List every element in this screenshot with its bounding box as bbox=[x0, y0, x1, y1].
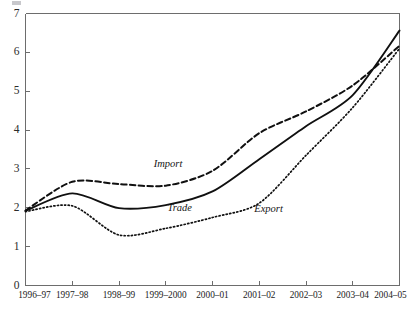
axis-frame bbox=[26, 14, 400, 286]
series-import bbox=[26, 46, 400, 211]
x-tick-label: 2004–05 bbox=[374, 290, 407, 300]
x-tick-label: 2001–02 bbox=[243, 290, 276, 300]
y-tick-label: 4 bbox=[14, 123, 20, 135]
y-axis-labels: 01234567 bbox=[14, 7, 20, 291]
y-tick-label: 7 bbox=[14, 7, 20, 19]
x-axis-labels: 1996–971997–981998–991999–20002000–01200… bbox=[18, 290, 407, 300]
y-tick-label: 5 bbox=[14, 84, 20, 96]
series-label-import: Import bbox=[153, 158, 184, 169]
x-tick-label: 1996–97 bbox=[18, 290, 51, 300]
y-tick-label: 2 bbox=[14, 201, 20, 213]
x-tick-label: 2002–03 bbox=[290, 290, 323, 300]
series-export bbox=[26, 48, 400, 235]
x-axis-ticks bbox=[26, 281, 400, 286]
series-label-trade: Trade bbox=[168, 202, 193, 213]
x-tick-label: 1998–99 bbox=[103, 290, 136, 300]
line-chart: 01234567 1996–971997–981998–991999–20002… bbox=[0, 0, 414, 309]
x-tick-label: 1997–98 bbox=[56, 290, 89, 300]
data-series-group bbox=[26, 31, 400, 236]
x-tick-label: 2000–01 bbox=[196, 290, 229, 300]
series-trade bbox=[26, 31, 400, 211]
y-axis-ticks bbox=[26, 14, 31, 286]
y-tick-label: 6 bbox=[14, 45, 20, 57]
x-tick-label: 1999–2000 bbox=[145, 290, 187, 300]
y-tick-label: 1 bbox=[14, 240, 20, 252]
y-tick-label: 0 bbox=[14, 279, 20, 291]
x-tick-label: 2003–04 bbox=[336, 290, 369, 300]
y-tick-label: 3 bbox=[14, 162, 20, 174]
chart-container: 01234567 1996–971997–981998–991999–20002… bbox=[0, 0, 414, 309]
series-label-export: Export bbox=[253, 203, 284, 214]
plot-frame bbox=[26, 14, 400, 286]
